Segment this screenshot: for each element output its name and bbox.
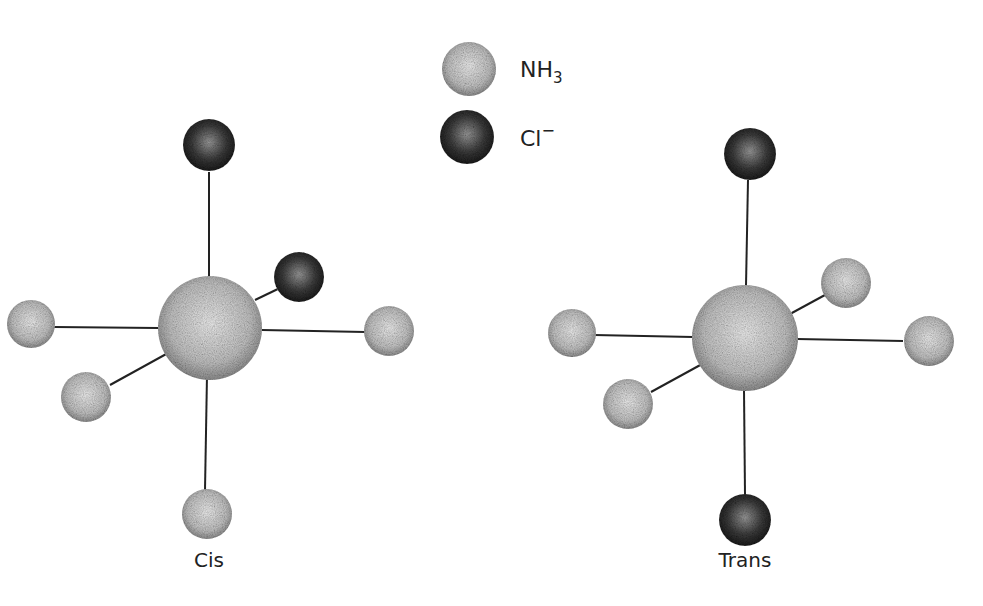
cis-front-ammonia	[61, 372, 111, 422]
cis-axial-bottom-ammonia	[182, 489, 232, 539]
trans-right-ammonia	[904, 316, 954, 366]
trans-molecule: Trans	[548, 128, 954, 572]
cis-left-ammonia	[7, 300, 55, 348]
cis-label: Cis	[194, 548, 224, 572]
chloride-legend-label: Cl−	[520, 121, 555, 151]
cis-axial-top-chloride	[183, 119, 235, 171]
trans-cobalt-center	[692, 285, 798, 391]
nh3-legend-icon	[442, 42, 496, 96]
legend: NH3 Cl−	[440, 42, 563, 164]
trans-axial-top-chloride	[724, 128, 776, 180]
chloride-legend-icon	[440, 110, 494, 164]
trans-axial-bottom-chloride	[719, 494, 771, 546]
trans-left-ammonia	[548, 309, 596, 357]
cis-equatorial-back-chloride	[274, 252, 324, 302]
trans-back-ammonia	[821, 258, 871, 308]
cis-cobalt-center	[158, 276, 262, 380]
trans-label: Trans	[718, 548, 772, 572]
nh3-legend-label: NH3	[520, 57, 563, 87]
cis-right-ammonia	[364, 306, 414, 356]
cis-molecule: Cis	[7, 119, 414, 572]
isomer-diagram: NH3 Cl− Cis	[0, 0, 983, 606]
trans-front-ammonia	[603, 379, 653, 429]
